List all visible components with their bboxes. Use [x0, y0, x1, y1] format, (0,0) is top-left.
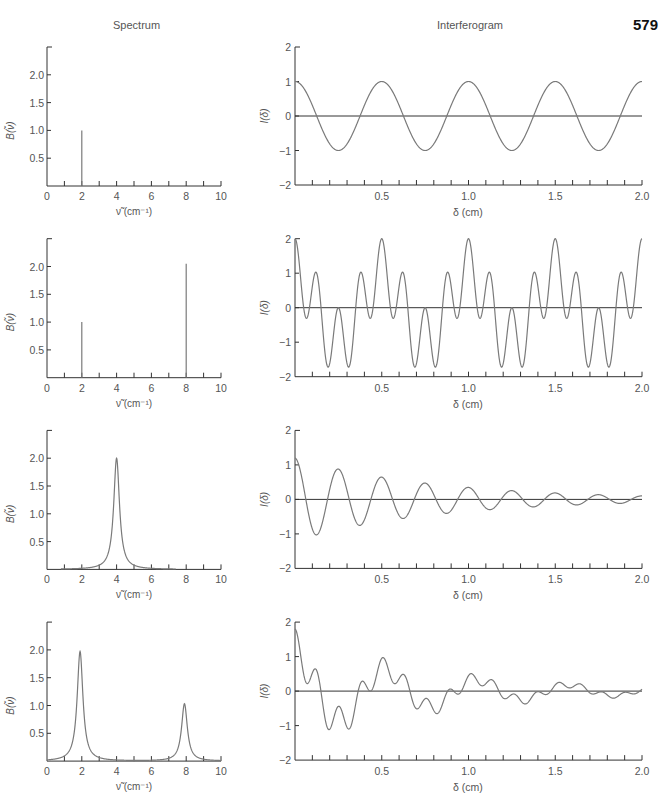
svg-text:0: 0 — [44, 190, 50, 202]
svg-text:10: 10 — [215, 573, 227, 585]
spectrum-curve — [47, 652, 221, 761]
svg-text:−2: −2 — [279, 754, 291, 766]
spectrum-y-label: B(ν̃) — [4, 505, 16, 523]
svg-text:2: 2 — [79, 573, 85, 585]
svg-text:−1: −1 — [279, 720, 291, 732]
svg-text:6: 6 — [148, 190, 154, 202]
svg-text:0: 0 — [44, 573, 50, 585]
svg-text:6: 6 — [148, 765, 154, 777]
svg-text:2.0: 2.0 — [29, 644, 44, 656]
svg-text:4: 4 — [114, 382, 120, 394]
svg-text:2.0: 2.0 — [635, 382, 650, 394]
svg-text:−1: −1 — [279, 145, 291, 157]
figure-canvas: 0.51.01.52.00246810ν̃ (cm⁻¹)B(ν̃)210−1−2… — [0, 0, 664, 803]
svg-text:1.0: 1.0 — [461, 765, 476, 777]
svg-text:1: 1 — [285, 76, 291, 88]
svg-text:1.0: 1.0 — [29, 508, 44, 520]
svg-text:−2: −2 — [279, 371, 291, 383]
svg-text:1.0: 1.0 — [29, 124, 44, 136]
svg-text:0.5: 0.5 — [29, 152, 44, 164]
spectrum-panel-2: 0.51.01.52.00246810ν̃ (cm⁻¹)B(ν̃) — [4, 239, 227, 409]
svg-text:0: 0 — [285, 493, 291, 505]
svg-text:10: 10 — [215, 382, 227, 394]
svg-text:1: 1 — [285, 267, 291, 279]
svg-text:2: 2 — [79, 190, 85, 202]
svg-text:2: 2 — [285, 424, 291, 436]
spectrum-panel-4: 0.51.01.52.00246810ν̃ (cm⁻¹)B(ν̃) — [4, 622, 227, 792]
interferogram-y-label: I(δ) — [259, 492, 270, 507]
svg-text:10: 10 — [215, 765, 227, 777]
spectrum-x-label: ν̃ (cm⁻¹) — [116, 589, 152, 600]
svg-text:0.5: 0.5 — [29, 727, 44, 739]
svg-text:0.5: 0.5 — [374, 765, 389, 777]
svg-text:8: 8 — [183, 765, 189, 777]
spectrum-curve — [61, 458, 176, 569]
interferogram-panel-1: 210−1−20.51.01.52.0δ (cm)I(δ) — [259, 41, 649, 218]
spectrum-axes — [47, 430, 221, 569]
interferogram-y-label: I(δ) — [259, 300, 270, 315]
svg-text:2: 2 — [79, 382, 85, 394]
svg-text:4: 4 — [114, 765, 120, 777]
svg-text:0: 0 — [285, 110, 291, 122]
svg-text:8: 8 — [183, 190, 189, 202]
svg-text:1.0: 1.0 — [29, 700, 44, 712]
spectrum-axes — [47, 239, 221, 378]
svg-text:6: 6 — [148, 382, 154, 394]
interferogram-x-label: δ (cm) — [453, 206, 483, 218]
svg-text:2.0: 2.0 — [29, 261, 44, 273]
svg-text:2: 2 — [285, 616, 291, 628]
svg-text:1.5: 1.5 — [29, 288, 44, 300]
svg-text:−2: −2 — [279, 179, 291, 191]
svg-text:8: 8 — [183, 573, 189, 585]
svg-text:1.0: 1.0 — [461, 573, 476, 585]
svg-text:−1: −1 — [279, 336, 291, 348]
svg-text:1.5: 1.5 — [548, 765, 563, 777]
svg-text:2: 2 — [79, 765, 85, 777]
svg-text:10: 10 — [215, 190, 227, 202]
svg-text:−2: −2 — [279, 562, 291, 574]
svg-text:1: 1 — [285, 651, 291, 663]
svg-text:2: 2 — [285, 233, 291, 245]
svg-text:1.5: 1.5 — [548, 573, 563, 585]
svg-text:1.5: 1.5 — [548, 190, 563, 202]
svg-text:0.5: 0.5 — [29, 536, 44, 548]
svg-text:0: 0 — [285, 302, 291, 314]
svg-text:2.0: 2.0 — [635, 765, 650, 777]
svg-text:0: 0 — [44, 382, 50, 394]
svg-text:1.5: 1.5 — [29, 672, 44, 684]
svg-text:2.0: 2.0 — [635, 573, 650, 585]
svg-text:6: 6 — [148, 573, 154, 585]
interferogram-x-label: δ (cm) — [453, 589, 483, 601]
svg-text:1.5: 1.5 — [29, 480, 44, 492]
interferogram-curve — [295, 629, 642, 730]
spectrum-panel-1: 0.51.01.52.00246810ν̃ (cm⁻¹)B(ν̃) — [4, 47, 227, 217]
spectrum-y-label: B(ν̃) — [4, 313, 16, 331]
svg-text:2: 2 — [285, 41, 291, 53]
interferogram-y-label: I(δ) — [259, 109, 270, 124]
svg-text:−1: −1 — [279, 528, 291, 540]
interferogram-panel-2: 210−1−20.51.01.52.0δ (cm)I(δ) — [259, 233, 649, 410]
svg-text:1.5: 1.5 — [29, 97, 44, 109]
interferogram-curve — [295, 458, 642, 535]
spectrum-y-label: B(ν̃) — [4, 696, 16, 714]
svg-text:0.5: 0.5 — [374, 382, 389, 394]
svg-text:0.5: 0.5 — [374, 190, 389, 202]
svg-text:1.0: 1.0 — [461, 382, 476, 394]
svg-text:0.5: 0.5 — [29, 344, 44, 356]
svg-text:4: 4 — [114, 190, 120, 202]
spectrum-x-label: ν̃ (cm⁻¹) — [116, 206, 152, 217]
svg-text:4: 4 — [114, 573, 120, 585]
interferogram-x-label: δ (cm) — [453, 781, 483, 793]
svg-text:0.5: 0.5 — [374, 573, 389, 585]
svg-text:1.5: 1.5 — [548, 382, 563, 394]
svg-text:2.0: 2.0 — [635, 190, 650, 202]
interferogram-panel-3: 210−1−20.51.01.52.0δ (cm)I(δ) — [259, 424, 649, 601]
svg-text:2.0: 2.0 — [29, 69, 44, 81]
interferogram-y-label: I(δ) — [259, 684, 270, 699]
svg-text:2.0: 2.0 — [29, 452, 44, 464]
spectrum-y-label: B(ν̃) — [4, 121, 16, 139]
spectrum-x-label: ν̃ (cm⁻¹) — [116, 398, 152, 409]
interferogram-curve — [295, 239, 642, 367]
interferogram-panel-4: 210−1−20.51.01.52.0δ (cm)I(δ) — [259, 616, 649, 793]
svg-text:0: 0 — [285, 685, 291, 697]
